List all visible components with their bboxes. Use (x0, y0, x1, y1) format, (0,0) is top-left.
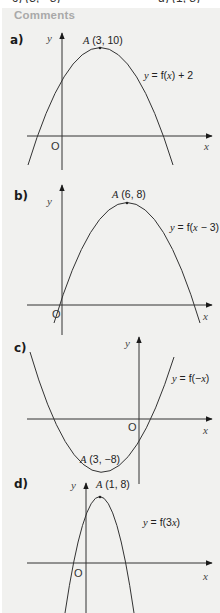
x-axis-label-c: x (202, 424, 208, 436)
vertex-label-c: A (3, −8) (79, 453, 120, 465)
vertex-label-a: A (3, 10) (82, 34, 123, 46)
parabola-d (65, 497, 134, 613)
graph-d: d) y x O A (1, 8) y = f(3x) (14, 477, 212, 613)
textbook-page: c) (3, −8) d) (1, 8) Comments a) y x O A… (0, 0, 220, 613)
y-axis-label-b: y (46, 195, 52, 207)
part-label-b: b) (14, 189, 28, 203)
origin-label-c: O (128, 421, 137, 433)
x-axis-label-d: x (202, 570, 208, 582)
y-axis-label-c: y (124, 337, 130, 349)
vertex-label-d: A (1, 8) (95, 478, 130, 490)
equation-label-c: y = f(−x) (171, 372, 209, 384)
graph-c: c) y x O A (3, −8) y = f(−x) (14, 337, 212, 484)
vertex-point-d (99, 496, 102, 499)
graphs-canvas: a) y x O A (3, 10) y = f(x) + 2 b) y x O… (0, 0, 220, 613)
y-axis-label-a: y (46, 32, 52, 44)
part-label-a: a) (10, 33, 24, 47)
part-label-d: d) (14, 477, 28, 491)
equation-label-b: y = f(x − 3) (169, 221, 219, 233)
graph-b: b) y x O A (6, 8) y = f(x − 3) (14, 185, 219, 335)
parabola-a (28, 48, 173, 166)
vertex-label-b: A (6, 8) (111, 188, 146, 200)
vertex-point-b (126, 202, 129, 205)
y-axis-label-d: y (70, 479, 76, 491)
x-axis-label-b: x (202, 310, 208, 322)
origin-label-d: O (74, 567, 83, 579)
part-label-c: c) (14, 341, 27, 355)
vertex-point-a (99, 47, 102, 50)
equation-label-a: y = f(x) + 2 (143, 69, 193, 81)
origin-label-b: O (52, 308, 61, 320)
origin-label-a: O (51, 140, 60, 152)
equation-label-d: y = f(3x) (142, 516, 180, 528)
graph-a: a) y x O A (3, 10) y = f(x) + 2 (10, 32, 212, 170)
x-axis-label-a: x (203, 140, 209, 152)
